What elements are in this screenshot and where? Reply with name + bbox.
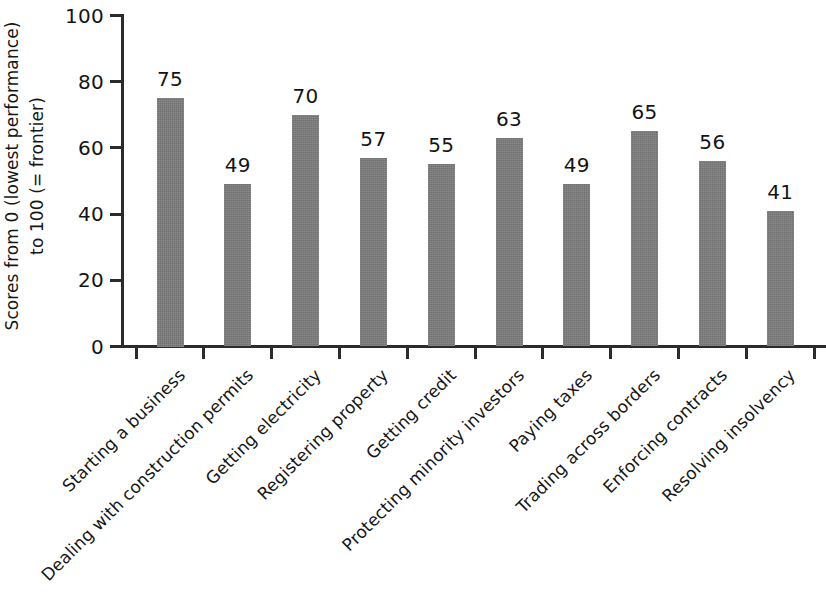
y-axis-line (121, 14, 124, 348)
bar-chart: Scores from 0 (lowest performance) to 10… (0, 0, 826, 607)
bar (699, 161, 726, 346)
x-axis-tick (270, 348, 273, 359)
x-axis-tick (609, 348, 612, 359)
y-axis-title-line-2: to 100 (= frontier) (25, 97, 50, 255)
bar-value-label: 56 (672, 130, 752, 154)
y-axis-tick-label: 100 (4, 4, 104, 28)
y-axis-tick (110, 14, 122, 17)
y-axis-tick (110, 213, 122, 216)
x-axis-tick (135, 348, 138, 359)
y-axis-tick-label: 40 (4, 202, 104, 226)
x-axis-tick (677, 348, 680, 359)
bar-value-label: 41 (740, 180, 820, 204)
y-axis-title: Scores from 0 (lowest performance) to 10… (0, 0, 60, 352)
bar (157, 98, 184, 346)
bar (428, 164, 455, 346)
y-axis-tick-label: 60 (4, 136, 104, 160)
x-axis-category-label: Starting a business (0, 365, 189, 607)
bar-value-label: 55 (401, 133, 481, 157)
bar-value-label: 70 (266, 84, 346, 108)
bar (360, 158, 387, 347)
bar-value-label: 63 (469, 107, 549, 131)
bar (496, 138, 523, 347)
bar-value-label: 65 (605, 100, 685, 124)
x-axis-tick (745, 348, 748, 359)
bar-value-label: 49 (198, 153, 278, 177)
y-axis-tick-label: 80 (4, 70, 104, 94)
x-axis-tick (813, 348, 816, 359)
y-axis-tick-label: 0 (4, 335, 104, 359)
y-axis-tick (110, 146, 122, 149)
bar (631, 131, 658, 346)
bar-value-label: 75 (130, 67, 210, 91)
y-axis-tick (110, 80, 122, 83)
bar-value-label: 49 (537, 153, 617, 177)
x-axis-tick (474, 348, 477, 359)
bar (767, 211, 794, 347)
y-axis-tick-label: 20 (4, 268, 104, 292)
bar (292, 115, 319, 347)
x-axis-tick (338, 348, 341, 359)
bar (224, 184, 251, 346)
x-axis-tick (406, 348, 409, 359)
x-axis-tick (541, 348, 544, 359)
y-axis-tick (110, 345, 122, 348)
bar (563, 184, 590, 346)
x-axis-tick (202, 348, 205, 359)
y-axis-tick (110, 279, 122, 282)
